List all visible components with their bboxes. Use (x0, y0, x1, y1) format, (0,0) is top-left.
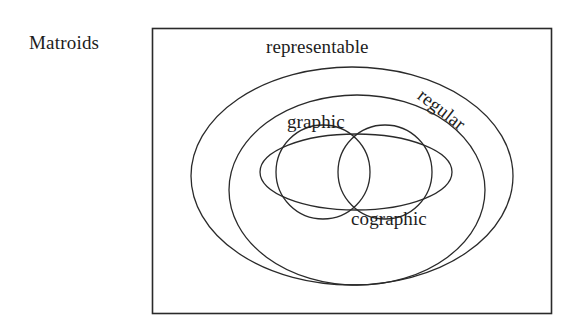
graphic-circle (276, 125, 370, 219)
representable-set-label: representable (266, 36, 369, 58)
matroids-frame-rect (153, 29, 552, 314)
cographic-set-label: cographic (351, 208, 427, 230)
graphic-set-label: graphic (287, 111, 345, 133)
representable-ellipse (191, 67, 513, 285)
matroids-caption-label: Matroids (29, 32, 99, 54)
cographic-circle (338, 125, 432, 219)
matroids-venn-diagram: Matroids representable regular graphic c… (0, 0, 581, 326)
